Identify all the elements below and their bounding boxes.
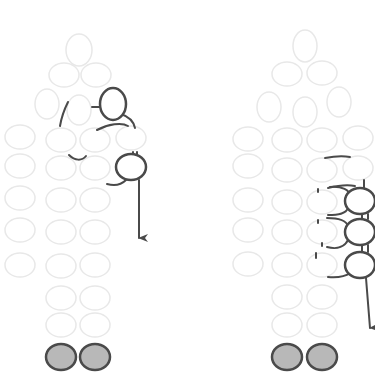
light-bead bbox=[293, 30, 317, 62]
dark-bead bbox=[345, 252, 375, 278]
light-bead bbox=[80, 188, 110, 212]
filled-bead bbox=[46, 344, 76, 370]
light-bead bbox=[46, 156, 76, 180]
light-bead bbox=[116, 126, 146, 150]
light-bead bbox=[66, 34, 92, 66]
diagram-stage: Beadwork thread path diagram bbox=[0, 0, 375, 382]
light-bead bbox=[343, 126, 373, 150]
light-bead bbox=[49, 63, 79, 87]
light-bead bbox=[257, 92, 281, 122]
light-bead bbox=[46, 188, 76, 212]
light-bead bbox=[272, 285, 302, 309]
light-bead bbox=[307, 158, 337, 182]
light-bead bbox=[272, 62, 302, 86]
filled-bead bbox=[80, 344, 110, 370]
light-bead bbox=[81, 63, 111, 87]
light-bead bbox=[80, 313, 110, 337]
bead-diagram bbox=[0, 0, 375, 382]
light-bead bbox=[46, 220, 76, 244]
light-bead bbox=[293, 97, 317, 127]
light-bead bbox=[233, 218, 263, 242]
light-bead bbox=[5, 154, 35, 178]
light-bead bbox=[233, 127, 263, 151]
light-bead bbox=[307, 253, 337, 277]
light-bead bbox=[327, 87, 351, 117]
light-bead bbox=[46, 254, 76, 278]
dark-bead bbox=[345, 188, 375, 214]
right-panel-dark-beads bbox=[345, 188, 375, 278]
light-bead bbox=[80, 220, 110, 244]
light-bead bbox=[5, 218, 35, 242]
light-bead bbox=[272, 220, 302, 244]
light-bead bbox=[343, 156, 373, 180]
light-bead bbox=[307, 313, 337, 337]
dark-bead bbox=[100, 88, 126, 120]
light-bead bbox=[5, 253, 35, 277]
filled-bead bbox=[307, 344, 337, 370]
filled-bead bbox=[272, 344, 302, 370]
light-bead bbox=[272, 158, 302, 182]
light-bead bbox=[80, 286, 110, 310]
left-panel-filled-beads bbox=[46, 344, 110, 370]
light-bead bbox=[272, 253, 302, 277]
light-bead bbox=[67, 95, 91, 125]
light-bead bbox=[46, 128, 76, 152]
light-bead bbox=[233, 154, 263, 178]
light-bead bbox=[233, 188, 263, 212]
light-bead bbox=[46, 286, 76, 310]
dark-bead bbox=[116, 154, 146, 180]
light-bead bbox=[307, 61, 337, 85]
light-bead bbox=[272, 128, 302, 152]
light-bead bbox=[272, 313, 302, 337]
light-bead bbox=[5, 125, 35, 149]
light-bead bbox=[35, 89, 59, 119]
light-bead bbox=[80, 156, 110, 180]
dark-bead bbox=[345, 219, 375, 245]
light-bead bbox=[272, 190, 302, 214]
light-bead bbox=[46, 313, 76, 337]
light-bead bbox=[5, 186, 35, 210]
right-panel-filled-beads bbox=[272, 344, 337, 370]
light-bead bbox=[233, 252, 263, 276]
light-bead bbox=[80, 128, 110, 152]
light-bead bbox=[307, 128, 337, 152]
left-panel-light-beads bbox=[5, 34, 146, 337]
right-panel-light-beads bbox=[233, 30, 373, 337]
light-bead bbox=[307, 285, 337, 309]
light-bead bbox=[307, 190, 337, 214]
light-bead bbox=[307, 220, 337, 244]
light-bead bbox=[80, 253, 110, 277]
